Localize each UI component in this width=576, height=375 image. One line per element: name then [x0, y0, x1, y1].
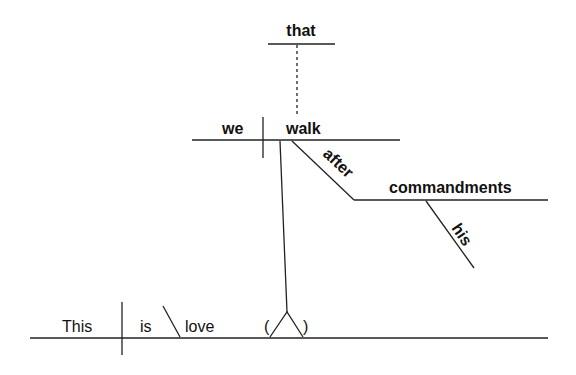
word-this: This — [62, 318, 92, 335]
paren-close: ) — [303, 318, 308, 335]
word-walk: walk — [285, 120, 321, 137]
word-after: after — [320, 145, 357, 181]
predicate-divider — [163, 306, 180, 337]
pedestal-fork — [270, 312, 303, 337]
sentence-diagram: that we walk after commandments his This… — [0, 0, 576, 375]
pedestal-stem — [280, 141, 287, 312]
word-commandments: commandments — [389, 179, 512, 196]
paren-open: ( — [264, 318, 270, 335]
word-we: we — [221, 120, 243, 137]
word-that: that — [286, 22, 316, 39]
word-love: love — [185, 318, 214, 335]
word-his: his — [449, 220, 476, 249]
word-is: is — [140, 318, 152, 335]
